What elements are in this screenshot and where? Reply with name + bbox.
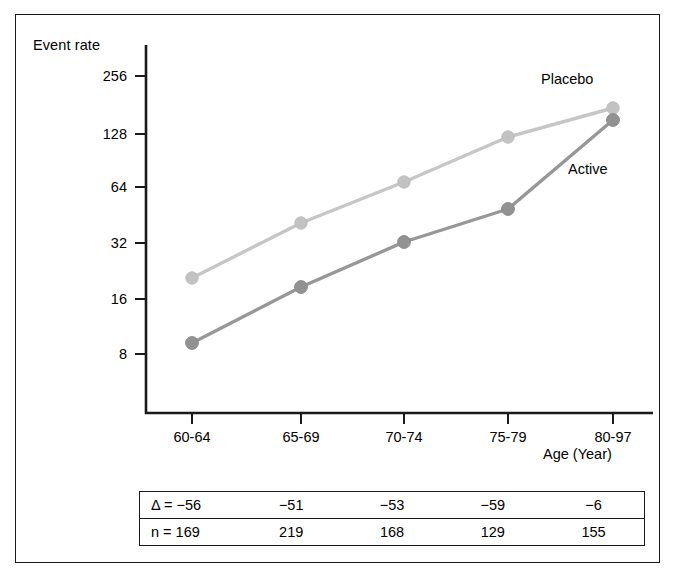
figure-container: Event rate 256 128 64 32 16 8 60-64 65-6…	[0, 0, 675, 577]
y-tick-label-8: 8	[83, 346, 127, 362]
x-tick-label-70-74: 70-74	[364, 429, 444, 445]
table-cell-delta-4: −6	[543, 492, 644, 519]
table-cell-delta-2: −53	[342, 492, 443, 519]
summary-table: Δ = −56 −51 −53 −59 −6 n = 169 219 168 1…	[139, 491, 645, 546]
y-tick-label-64: 64	[83, 179, 127, 195]
y-tick-label-16: 16	[83, 291, 127, 307]
figure-border	[15, 14, 660, 563]
y-tick-label-128: 128	[83, 126, 127, 142]
y-tick-label-256: 256	[83, 68, 127, 84]
table-cell-delta-1: −51	[241, 492, 342, 519]
series-label-active: Active	[568, 161, 608, 177]
table-cell-n-0: n = 169	[140, 519, 241, 546]
table-cell-n-1: 219	[241, 519, 342, 546]
x-tick-label-65-69: 65-69	[261, 429, 341, 445]
table-row-n: n = 169 219 168 129 155	[140, 519, 644, 546]
x-tick-label-60-64: 60-64	[152, 429, 232, 445]
table-row-delta: Δ = −56 −51 −53 −59 −6	[140, 492, 644, 519]
y-tick-label-32: 32	[83, 235, 127, 251]
series-label-placebo: Placebo	[541, 71, 593, 87]
y-axis-title: Event rate	[33, 37, 100, 53]
table-cell-n-2: 168	[342, 519, 443, 546]
table-cell-delta-3: −59	[442, 492, 543, 519]
table-cell-n-4: 155	[543, 519, 644, 546]
x-tick-label-75-79: 75-79	[468, 429, 548, 445]
table-cell-delta-0: Δ = −56	[140, 492, 241, 519]
x-tick-label-80-97: 80-97	[573, 429, 653, 445]
x-axis-title: Age (Year)	[543, 446, 612, 462]
table-cell-n-3: 129	[442, 519, 543, 546]
